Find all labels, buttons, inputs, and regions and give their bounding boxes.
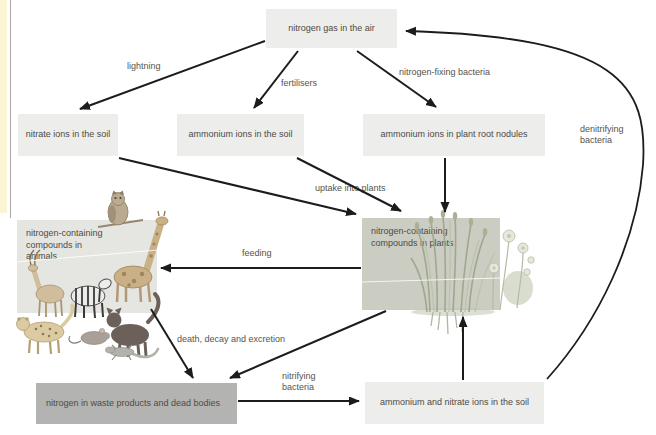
node-nitrogen-gas-in-air: nitrogen gas in the air	[266, 9, 397, 48]
arrow-lightning	[80, 41, 265, 109]
arrow-nitrogen-fixing	[357, 51, 436, 107]
edge-label-nitrogen-fixing-bacteria: nitrogen-fixing bacteria	[399, 67, 490, 78]
edge-label-feeding: feeding	[242, 248, 272, 259]
edge-label-fertilisers: fertilisers	[281, 78, 317, 89]
node-ammonium-ions-soil: ammonium ions in the soil	[177, 114, 304, 156]
giraffe-icon	[114, 211, 168, 302]
edge-label-nitrifying-bacteria: nitrifying bacteria	[282, 371, 334, 394]
edge-label-death-decay-excretion: death, decay and excretion	[177, 334, 285, 345]
mouse-icon	[69, 328, 110, 344]
edge-label-lightning: lightning	[127, 61, 161, 72]
page-edge-line	[10, 0, 11, 218]
node-ammonium-nitrate-soil: ammonium and nitrate ions in the soil	[365, 382, 544, 424]
owl-icon	[98, 191, 143, 228]
edge-label-denitrifying-bacteria: denitrifying bacteria	[580, 124, 636, 147]
node-nitrate-ions-soil: nitrate ions in the soil	[18, 114, 118, 156]
zebra-icon	[71, 277, 113, 318]
plants-icon	[405, 200, 540, 342]
animals-illustration	[10, 190, 175, 375]
leopard-icon	[17, 305, 73, 354]
nitrogen-cycle-diagram: nitrogen gas in the air nitrate ions in …	[0, 0, 656, 435]
antelope-icon	[29, 250, 65, 317]
page-edge-strip	[0, 0, 7, 213]
node-ammonium-ions-root-nodules: ammonium ions in plant root nodules	[363, 114, 545, 156]
edge-label-uptake-into-plants: uptake into plants	[315, 183, 386, 194]
lizard-icon	[106, 345, 159, 360]
node-nitrogen-in-waste: nitrogen in waste products and dead bodi…	[36, 383, 237, 424]
